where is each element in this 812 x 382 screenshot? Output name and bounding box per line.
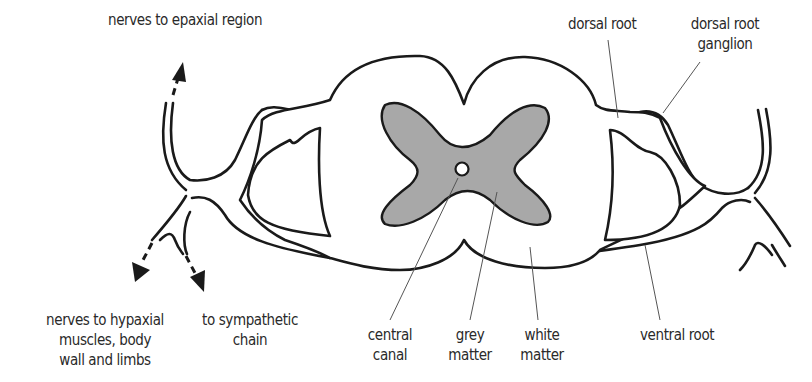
arrows: [132, 62, 205, 292]
central-canal: [456, 163, 469, 176]
label-dorsal-root-ganglion: dorsal root ganglion: [680, 14, 770, 54]
label-central-canal: central canal: [360, 325, 420, 365]
label-grey-matter: grey matter: [440, 325, 500, 365]
arrow-down-left-icon: [132, 262, 150, 282]
label-hypaxial: nerves to hypaxial muscles, body wall an…: [40, 310, 170, 370]
label-white-matter: white matter: [512, 325, 572, 365]
arrow-up-icon: [172, 62, 186, 82]
label-sympathetic: to sympathetic chain: [200, 310, 300, 350]
label-epaxial: nerves to epaxial region: [108, 10, 262, 30]
label-dorsal-root: dorsal root: [568, 14, 636, 34]
arrow-down-right-icon: [190, 270, 205, 292]
label-ventral-root: ventral root: [640, 325, 714, 345]
